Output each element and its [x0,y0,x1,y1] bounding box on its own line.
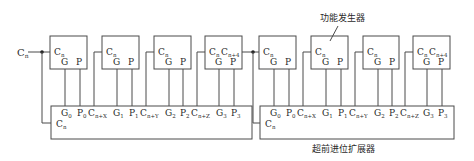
group-1: Cn G P Cn G P Cn G P Cn Cn+4 [50,36,252,139]
svg-text:P: P [76,57,82,67]
function-generator-8: Cn Cn+4 G P [413,36,450,69]
svg-text:G: G [165,57,172,67]
svg-text:G: G [61,57,68,67]
function-generator-7: Cn G P [363,36,399,69]
svg-text:Cn: Cn [17,47,29,59]
svg-text:G: G [113,57,120,67]
function-generator-label: 功能发生器 [320,12,365,23]
svg-text:P: P [128,57,134,67]
function-generator-6: Cn G P [311,36,348,69]
function-generator-1: Cn G P [50,36,87,69]
carry-lookahead-diagram: Cn Cn G P Cn G P Cn G P [0,0,474,161]
carry-lookahead-2: Cn G0 P0 Cn+X G1 P1 Cn+Y G2 P2 Cn+Z G3 P… [260,106,454,139]
function-generator-2: Cn G P [102,36,139,69]
function-generator-5: Cn G P [259,36,296,69]
svg-text:P: P [438,57,444,67]
svg-text:G: G [215,57,222,67]
input-cn-label: Cn [17,47,29,59]
carry-lookahead-label: 超前进位扩展器 [312,143,375,154]
svg-text:P: P [285,57,291,67]
svg-text:P: P [337,57,343,67]
svg-text:G: G [374,57,381,67]
function-generator-4: Cn Cn+4 G P [205,36,242,69]
svg-text:G: G [423,57,430,67]
carry-lookahead-1: Cn G0 P0 Cn+X G1 P1 Cn+Y G2 P2 Cn+Z G3 P… [51,106,252,139]
svg-text:P: P [180,57,186,67]
svg-text:G: G [270,57,277,67]
svg-text:P: P [230,57,236,67]
svg-text:G: G [322,57,329,67]
svg-text:P: P [389,57,395,67]
function-generator-3: Cn G P [154,36,191,69]
group-2: Cn G P Cn G P Cn G P Cn Cn+4 G P [259,36,454,139]
